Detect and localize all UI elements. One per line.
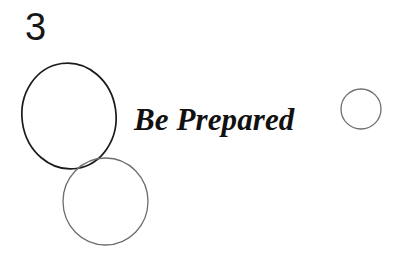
slide-headline: Be Prepared xyxy=(134,104,294,135)
slide-canvas: 3 Be Prepared xyxy=(0,0,401,263)
large-black-ellipse xyxy=(15,57,123,175)
slide-number: 3 xyxy=(25,8,46,46)
small-gray-circle xyxy=(341,89,381,129)
medium-gray-circle xyxy=(63,158,148,245)
